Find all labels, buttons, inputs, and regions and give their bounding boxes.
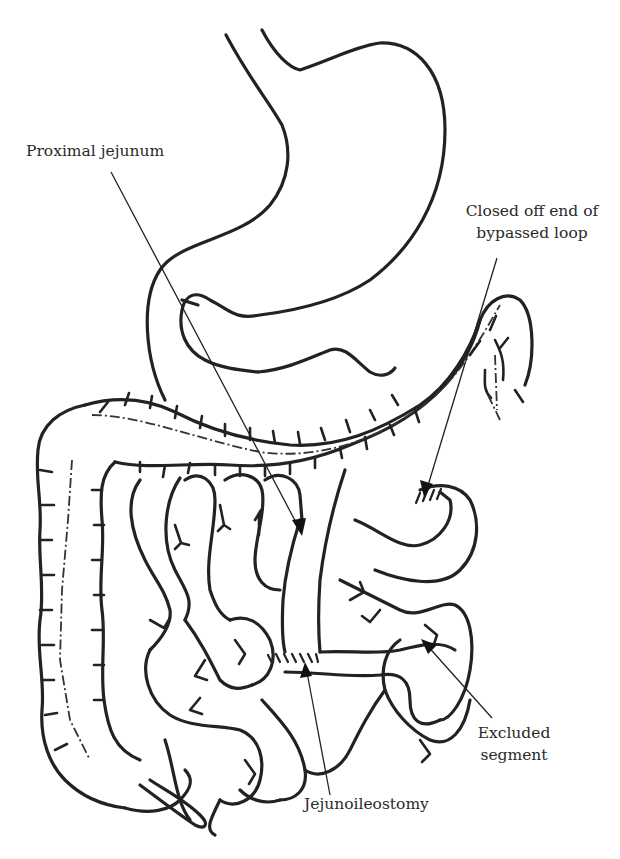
stomach xyxy=(147,30,445,400)
label-closed-off-end-line1: Closed off end of xyxy=(446,200,618,222)
label-closed-off-end: Closed off end of bypassed loop xyxy=(446,200,618,244)
excluded-loops xyxy=(305,486,477,774)
proximal-jejunum-segment xyxy=(268,470,455,724)
label-excluded-segment: Excluded segment xyxy=(466,722,562,766)
label-excluded-segment-line1: Excluded xyxy=(466,722,562,744)
label-jejunoileostomy: Jejunoileostomy xyxy=(304,793,429,815)
label-leaders xyxy=(111,172,497,795)
label-excluded-segment-line2: segment xyxy=(466,744,562,766)
label-closed-off-end-line2: bypassed loop xyxy=(446,222,618,244)
ascending-colon xyxy=(37,405,205,827)
label-proximal-jejunum: Proximal jejunum xyxy=(26,140,164,162)
diagram-canvas: Proximal jejunum Closed off end of bypas… xyxy=(0,0,620,859)
small-bowel-loops xyxy=(131,475,305,835)
transverse-colon xyxy=(85,296,532,477)
